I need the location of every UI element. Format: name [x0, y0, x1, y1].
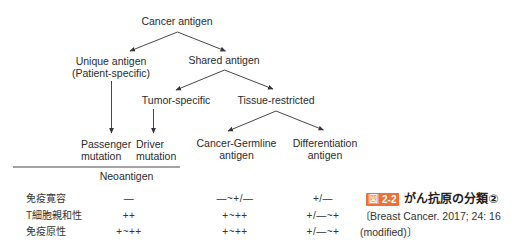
figure-caption: 図 2-2 がん抗原の分類② — [366, 192, 499, 206]
node-differentiation-antigen: Differentiation antigen — [293, 137, 358, 161]
cell-neoantigen: — — [124, 193, 135, 205]
node-differentiation-line2: antigen — [293, 149, 358, 161]
row-label-immune-tolerance: 免疫寛容 — [26, 193, 66, 205]
node-passenger-mutation: Passenger mutation — [81, 138, 131, 162]
node-germline-line2: antigen — [197, 149, 277, 161]
cell-neoantigen: ++ — [123, 210, 136, 222]
cell-cancer-germline: +~++ — [222, 226, 247, 238]
cell-differentiation: +/—~+ — [307, 210, 340, 222]
figure-source-line2: (modified)〕 — [360, 226, 417, 238]
arrow-tissue-to-germline — [228, 111, 276, 131]
node-unique-antigen: Unique antigen (Patient-specific) — [72, 55, 150, 79]
arrow-tissue-to-differentiation — [276, 111, 324, 130]
cell-cancer-germline: —~+/— — [217, 193, 254, 205]
node-differentiation-line1: Differentiation — [293, 137, 358, 149]
node-unique-antigen-line2: (Patient-specific) — [72, 67, 150, 79]
node-driver-line2: mutation — [136, 150, 176, 162]
node-cancer-germline-antigen: Cancer-Germline antigen — [197, 137, 277, 161]
cell-differentiation: +/—~+ — [307, 226, 340, 238]
figure-prefix: 図 — [368, 194, 379, 204]
arrow-shared-to-tumor — [176, 70, 225, 90]
node-passenger-line1: Passenger — [81, 138, 131, 150]
node-unique-antigen-line1: Unique antigen — [72, 55, 150, 67]
node-passenger-line2: mutation — [81, 150, 131, 162]
cell-cancer-germline: +~++ — [222, 210, 247, 222]
row-label-immunogenicity: 免疫原性 — [26, 226, 66, 238]
node-cancer-antigen: Cancer antigen — [141, 15, 212, 27]
arrow-cancer-to-unique — [130, 32, 178, 51]
figure-2-2: Cancer antigen Unique antigen (Patient-s… — [0, 0, 529, 252]
figure-source-line1: 〔Breast Cancer. 2017; 24: 16 — [360, 210, 501, 222]
figure-number: 2-2 — [382, 193, 396, 206]
cell-differentiation: +/— — [313, 193, 333, 205]
figure-title: がん抗原の分類② — [404, 192, 498, 206]
node-tissue-restricted: Tissue-restricted — [237, 94, 314, 106]
node-shared-antigen: Shared antigen — [188, 54, 259, 66]
row-label-t-cell-affinity: T細胞親和性 — [26, 210, 82, 222]
node-neoantigen: Neoantigen — [100, 170, 154, 182]
figure-number-badge: 図 2-2 — [366, 193, 399, 206]
node-driver-mutation: Driver mutation — [136, 138, 176, 162]
arrow-shared-to-tissue — [225, 70, 274, 89]
node-germline-line1: Cancer-Germline — [197, 137, 277, 149]
node-driver-line1: Driver — [136, 138, 176, 150]
cell-neoantigen: +~++ — [116, 226, 141, 238]
arrow-cancer-to-shared — [178, 32, 226, 51]
node-tumor-specific: Tumor-specific — [142, 94, 210, 106]
